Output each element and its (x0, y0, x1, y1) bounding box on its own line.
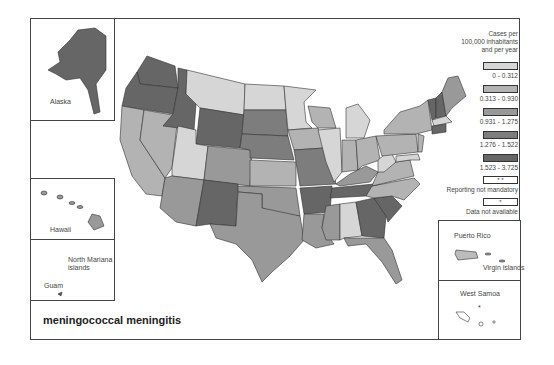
label-north-mariana: North Mariana islands (68, 256, 112, 272)
legend-label-1: 0 - 0.312 (428, 72, 518, 80)
territory-puerto-rico (455, 250, 478, 260)
legend-heading: Cases per 100,000 inhabitants and per ye… (428, 30, 518, 54)
legend-swatch-5 (483, 154, 518, 162)
legend: Cases per 100,000 inhabitants and per ye… (428, 30, 518, 216)
label-west-samoa: West Samoa (460, 290, 500, 297)
legend-swatch-1 (483, 62, 518, 70)
state-michigan (346, 104, 370, 138)
state-new-jersey (418, 134, 424, 152)
map-title: meningococcal meningitis (43, 314, 181, 326)
legend-label-5: 1.523 - 3.725 (428, 164, 518, 172)
state-new-york (384, 100, 432, 134)
state-ohio (356, 136, 380, 170)
state-north-dakota (244, 84, 286, 110)
state-colorado (204, 146, 252, 186)
state-hawaii (88, 214, 104, 230)
label-guam: Guam (44, 282, 63, 289)
legend-label-4: 1.276 - 1.522 (428, 141, 518, 149)
state-pennsylvania (376, 134, 418, 156)
legend-swatch-2 (483, 85, 518, 93)
legend-swatch-3 (483, 108, 518, 116)
territory-west-samoa (456, 312, 470, 322)
label-hawaii: Hawaii (50, 226, 71, 233)
label-virgin-islands: Virgin islands (483, 264, 525, 271)
label-alaska: Alaska (50, 98, 71, 105)
svg-text:*: * (478, 304, 481, 311)
state-south-dakota (242, 110, 288, 136)
state-washington (137, 56, 178, 88)
territory-guam (58, 292, 62, 296)
legend-swatch-4 (483, 131, 518, 139)
state-wyoming (196, 108, 244, 148)
legend-label-not-mandatory: Reporting not mandatory (428, 186, 518, 194)
state-indiana (342, 140, 358, 172)
legend-label-2: 0.313 - 0.930 (428, 95, 518, 103)
label-puerto-rico: Puerto Rico (454, 232, 491, 239)
legend-label-not-available: Data not available (428, 208, 518, 216)
state-kansas (250, 160, 296, 186)
state-florida (344, 238, 402, 284)
legend-swatch-not-available: * (483, 198, 518, 206)
legend-swatch-not-mandatory: * * (483, 176, 518, 184)
state-wisconsin (308, 106, 336, 128)
legend-label-3: 0.931 - 1.275 (428, 118, 518, 126)
